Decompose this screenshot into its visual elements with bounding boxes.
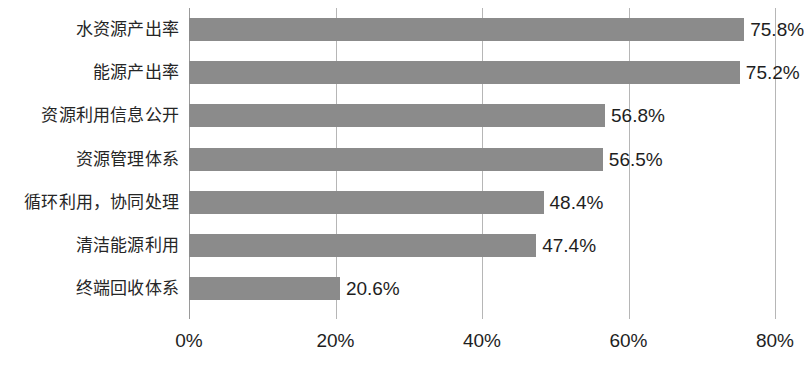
x-tick-label: 40% (463, 330, 501, 352)
bar-value-label: 20.6% (340, 277, 400, 300)
bar (189, 104, 605, 127)
bar-value-label: 47.4% (536, 234, 596, 257)
bar-value-label: 56.8% (605, 104, 665, 127)
category-label: 清洁能源利用 (76, 224, 189, 267)
bar-row: 资源管理体系56.5% (0, 138, 800, 181)
bar-row: 循环利用，协同处理48.4% (0, 181, 800, 224)
bar-value-label: 75.2% (740, 61, 800, 84)
bar-row: 清洁能源利用47.4% (0, 224, 800, 267)
bar-row: 终端回收体系20.6% (0, 267, 800, 310)
bar-row: 资源利用信息公开56.8% (0, 94, 800, 137)
category-label: 资源管理体系 (76, 138, 189, 181)
bar (189, 234, 536, 257)
bar-value-label: 75.8% (744, 18, 804, 41)
x-tick-label: 20% (316, 330, 354, 352)
bar (189, 277, 340, 300)
x-tick-label: 0% (175, 330, 202, 352)
x-tick-label: 60% (609, 330, 647, 352)
bar-row: 能源产出率75.2% (0, 51, 800, 94)
category-label: 能源产出率 (93, 51, 189, 94)
category-label: 资源利用信息公开 (41, 94, 189, 137)
category-label: 终端回收体系 (76, 267, 189, 310)
x-tick-label: 80% (756, 330, 794, 352)
bar-rows: 水资源产出率75.8%能源产出率75.2%资源利用信息公开56.8%资源管理体系… (0, 0, 800, 319)
category-label: 循环利用，协同处理 (24, 181, 189, 224)
bar (189, 191, 544, 214)
bar-value-label: 48.4% (544, 191, 604, 214)
bar-value-label: 56.5% (603, 148, 663, 171)
bar (189, 148, 603, 171)
bar (189, 61, 740, 84)
bar-row: 水资源产出率75.8% (0, 8, 800, 51)
x-axis: 0%20%40%60%80% (0, 330, 800, 360)
bar (189, 18, 744, 41)
category-label: 水资源产出率 (76, 8, 189, 51)
